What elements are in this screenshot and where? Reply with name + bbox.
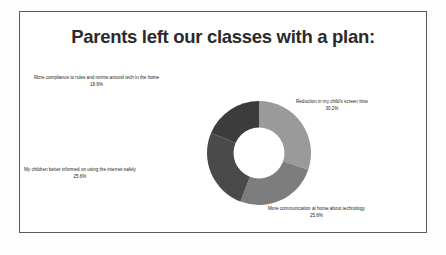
- slice-label-screentime: Reduction in my child's screen time 30.2…: [296, 98, 368, 112]
- slice-label-communication: More communication at home about technol…: [268, 205, 365, 219]
- slice-label-compliance-value: 18.6%: [34, 81, 159, 88]
- donut-chart: [207, 101, 311, 205]
- slice-label-internet-safety-value: 25.6%: [24, 173, 136, 180]
- slice-label-compliance: More compliance to rules and norms aroun…: [34, 74, 159, 88]
- slice-label-communication-value: 25.6%: [268, 212, 365, 219]
- donut-chart-svg: [207, 101, 311, 205]
- slice-label-communication-text: More communication at home about technol…: [268, 206, 365, 211]
- slice-label-screentime-value: 30.2%: [296, 105, 368, 112]
- page-title: Parents left our classes with a plan:: [20, 26, 426, 48]
- slice-label-internet-safety: My children better informed on using the…: [24, 166, 136, 180]
- slide-frame: Parents left our classes with a plan: Mo…: [19, 11, 427, 233]
- slice-label-compliance-text: More compliance to rules and norms aroun…: [34, 75, 159, 80]
- slice-label-internet-safety-text: My children better informed on using the…: [24, 167, 136, 172]
- slice-label-screentime-text: Reduction in my child's screen time: [296, 99, 368, 104]
- donut-hole: [234, 128, 285, 179]
